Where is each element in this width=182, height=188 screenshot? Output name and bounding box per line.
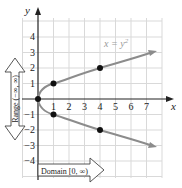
x-tick-3: 3 — [82, 101, 87, 112]
x-axis-label: x — [170, 100, 176, 112]
y-tick-neg4: −4 — [24, 155, 35, 166]
point-0-0 — [35, 96, 41, 102]
point-1-neg1 — [51, 112, 57, 118]
x-tick-7: 7 — [144, 101, 149, 112]
grid — [22, 18, 162, 178]
y-axis-arrow-icon — [35, 7, 41, 15]
point-1-1 — [51, 81, 57, 87]
domain-label: Domain [0, ∞) — [41, 167, 88, 176]
y-tick-4: 4 — [30, 31, 35, 42]
range-label: Range (−∞, ∞) — [11, 75, 20, 123]
x-tick-6: 6 — [129, 101, 134, 112]
equation-label: x = y2 — [103, 37, 129, 49]
y-tick-neg2: −2 — [24, 124, 35, 135]
domain-arrow: Domain [0, ∞) — [38, 158, 104, 182]
y-tick-2: 2 — [30, 62, 35, 73]
curve-upper-branch — [38, 53, 150, 99]
x-tick-labels: 1 2 3 4 5 6 7 — [51, 101, 149, 112]
point-4-2 — [97, 65, 103, 71]
y-axis-label: y — [24, 4, 30, 16]
point-4-neg2 — [97, 127, 103, 133]
x-tick-2: 2 — [67, 101, 72, 112]
y-tick-neg3: −3 — [24, 140, 35, 151]
x-tick-1: 1 — [51, 101, 56, 112]
x-tick-5: 5 — [113, 101, 118, 112]
graph-canvas: x = y2 x y 1 2 3 4 5 6 7 4 3 2 1 −1 −2 −… — [0, 0, 182, 188]
x-tick-4: 4 — [98, 101, 103, 112]
y-tick-neg1: −1 — [24, 109, 35, 120]
y-tick-1: 1 — [30, 78, 35, 89]
y-tick-3: 3 — [30, 47, 35, 58]
